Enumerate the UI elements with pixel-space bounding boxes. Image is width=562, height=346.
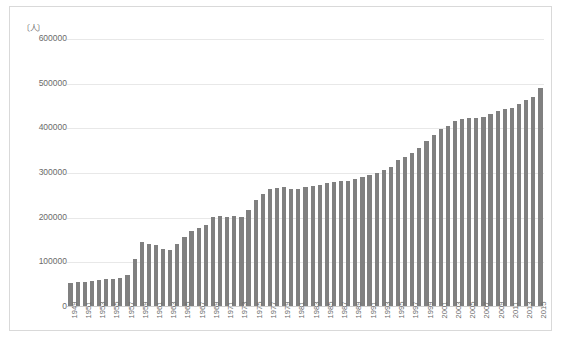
bar[interactable] [510,108,514,306]
bar[interactable] [460,119,464,306]
bar[interactable] [189,231,193,306]
bar[interactable] [211,217,215,306]
x-axis-tick-label: 2009 [494,309,501,343]
bar-slot [288,39,295,306]
bar-slot [224,39,231,306]
x-axis-tick-label: 1975 [252,309,259,343]
bar[interactable] [339,181,343,306]
bar[interactable] [282,187,286,306]
bar[interactable] [154,245,158,306]
bar-slot [402,39,409,306]
bar[interactable] [254,200,258,306]
bar[interactable] [367,175,371,306]
bar[interactable] [417,148,421,306]
x-axis-tick-label: 2015 [537,309,544,343]
bar[interactable] [503,109,507,306]
bar[interactable] [474,118,478,306]
bar[interactable] [517,104,521,306]
bar[interactable] [360,177,364,306]
bar[interactable] [353,179,357,306]
x-axis-tick-text: 1959 [142,302,150,319]
bar[interactable] [182,237,186,306]
bar[interactable] [453,121,457,306]
bar-slot [359,39,366,306]
x-axis-tick-text: 2001 [441,302,449,319]
bar[interactable] [303,187,307,306]
bar[interactable] [318,185,322,306]
bar[interactable] [140,242,144,306]
bar[interactable] [524,100,528,306]
x-axis-tick-text: 1985 [327,302,335,319]
bar-slot [387,39,394,306]
bar[interactable] [268,189,272,306]
bar[interactable] [296,189,300,306]
bar[interactable] [197,228,201,306]
bar[interactable] [332,182,336,306]
bar[interactable] [488,114,492,306]
bar-slot [487,39,494,306]
bar[interactable] [389,167,393,306]
bar[interactable] [225,217,229,306]
bar[interactable] [325,183,329,306]
x-axis-tick-label: 1949 [67,309,74,343]
x-axis-tick-text: 1983 [313,302,321,319]
x-axis-tick-text: 1977 [270,302,278,319]
bar-slot [174,39,181,306]
x-axis-tick-label: 1999 [423,309,430,343]
bar[interactable] [289,189,293,306]
bar[interactable] [168,250,172,306]
bar[interactable] [403,157,407,306]
bar[interactable] [538,88,542,306]
bar[interactable] [147,244,151,306]
bar-slot [103,39,110,306]
x-axis-tick-label: 1989 [352,309,359,343]
bar[interactable] [261,194,265,306]
x-axis-tick-text: 1991 [370,302,378,319]
bar-slot [394,39,401,306]
bar[interactable] [175,244,179,306]
bar-slot [437,39,444,306]
bar-slot [188,39,195,306]
bar[interactable] [424,141,428,306]
bar[interactable] [275,188,279,306]
bar[interactable] [531,97,535,306]
bar[interactable] [311,186,315,306]
x-axis-tick-text: 1975 [256,302,264,319]
bar[interactable] [133,259,137,306]
bar[interactable] [496,111,500,306]
bar[interactable] [232,216,236,306]
bar[interactable] [396,160,400,306]
x-axis-tick-label: 2001 [437,309,444,343]
bar[interactable] [410,153,414,306]
bar[interactable] [346,181,350,306]
x-axis-tick-label: 1995 [394,309,401,343]
bar-slot [217,39,224,306]
bar-slot [266,39,273,306]
bar-slot [302,39,309,306]
bar[interactable] [467,118,471,306]
bar-slot [338,39,345,306]
x-axis-tick-text: 1969 [213,302,221,319]
bar-slot [516,39,523,306]
bar[interactable] [481,117,485,306]
bar-slot [473,39,480,306]
bar-slot [430,39,437,306]
bar-slot [67,39,74,306]
bar[interactable] [161,249,165,306]
bar[interactable] [375,173,379,307]
bar[interactable] [218,216,222,306]
x-axis-tick-label: 1985 [323,309,330,343]
bar[interactable] [239,217,243,306]
bar[interactable] [246,210,250,306]
x-axis-tick-text: 2015 [540,302,548,319]
bar[interactable] [432,135,436,306]
bar[interactable] [439,129,443,306]
bar-slot [501,39,508,306]
bar-slot [466,39,473,306]
x-axis-tick-text: 1957 [128,302,136,319]
bar-slot [494,39,501,306]
bar[interactable] [382,170,386,306]
bar[interactable] [446,126,450,306]
bar[interactable] [204,225,208,306]
x-axis-tick-text: 1981 [298,302,306,319]
